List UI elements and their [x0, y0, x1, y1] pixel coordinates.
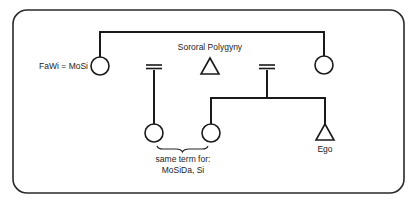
mosida-circle-icon: [145, 124, 163, 142]
fawi-mosi-label: FaWi = MoSi: [39, 61, 88, 71]
fawi-mosi-circle-icon: [91, 57, 109, 75]
brace-icon: [157, 146, 208, 152]
same-term-label: same term for:: [156, 154, 211, 164]
ego-triangle-icon: [316, 124, 334, 140]
ego-label: Ego: [317, 144, 332, 154]
same-term-kin-label: MoSiDa, Si: [162, 165, 205, 175]
mother-circle-icon: [315, 56, 333, 74]
sister-circle-icon: [202, 124, 220, 142]
kinship-diagram: FaWi = MoSi Sororal Polygyny Ego same te…: [0, 0, 418, 202]
husband-triangle-icon: [201, 58, 219, 74]
sibling-bar-children: [211, 98, 325, 124]
diagram-title: Sororal Polygyny: [178, 42, 243, 52]
diagram-frame: [13, 10, 404, 193]
